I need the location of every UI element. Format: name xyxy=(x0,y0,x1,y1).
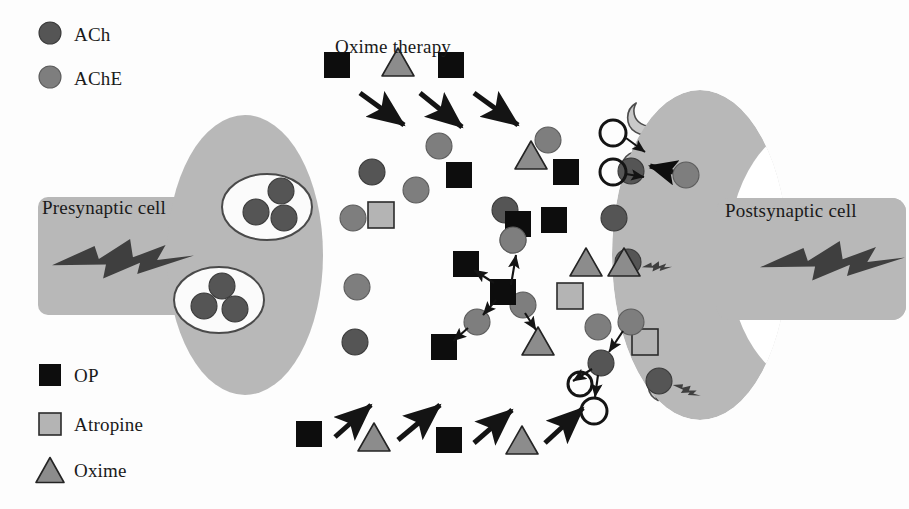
molecule-ache-cluster xyxy=(500,227,526,253)
vesicle-ach xyxy=(209,273,235,299)
legend-label-atropine: Atropine xyxy=(74,414,143,436)
molecule-ach xyxy=(342,329,368,355)
reaction-arrow xyxy=(483,300,496,315)
molecule-op xyxy=(553,159,579,185)
synaptic-vesicle xyxy=(174,267,264,333)
postsynaptic-cell-label: Postsynaptic cell xyxy=(725,200,857,222)
molecule-ache xyxy=(340,205,366,231)
oxime-therapy-label: Oxime therapy xyxy=(335,36,451,58)
molecule-oxime-inflow-bottom xyxy=(506,426,538,454)
molecule-oxime-inflow-bottom xyxy=(358,423,390,451)
molecule-oxime xyxy=(570,248,602,276)
hydrolysis-arrow xyxy=(609,331,623,352)
molecule-atropine xyxy=(368,202,394,228)
vesicle-ach xyxy=(222,296,248,322)
molecule-op-cluster xyxy=(431,334,457,360)
molecule-ache xyxy=(426,133,452,159)
molecule-op-inflow-bottom xyxy=(296,421,322,447)
molecule-op-inflow-bottom xyxy=(436,427,462,453)
vesicle-ach xyxy=(268,178,294,204)
inflow-arrow xyxy=(474,93,518,125)
inflow-arrow xyxy=(545,408,583,443)
legend-swatch-ache xyxy=(39,66,61,88)
molecule-oxime-cluster xyxy=(522,327,554,355)
legend-swatch-ach xyxy=(39,22,61,44)
receptor-bound-ach xyxy=(646,368,672,394)
legend-label-ach: ACh xyxy=(74,24,111,46)
inflow-arrow xyxy=(474,410,512,443)
vesicle-ach xyxy=(271,205,297,231)
molecule-op-cluster xyxy=(453,251,479,277)
molecule-op xyxy=(446,162,472,188)
inflow-arrow xyxy=(420,93,462,127)
inflow-arrow xyxy=(335,405,371,437)
molecule-ache xyxy=(535,127,561,153)
molecule-ach xyxy=(601,205,627,231)
molecule-ach xyxy=(588,350,614,376)
presynaptic-soma xyxy=(167,115,323,395)
legend-swatch-atropine xyxy=(39,413,61,435)
legend-label-ache: AChE xyxy=(74,68,122,90)
synaptic-vesicle xyxy=(222,174,312,240)
vesicle-ach xyxy=(243,199,269,225)
molecule-op xyxy=(541,207,567,233)
legend-swatch-oxime xyxy=(36,458,64,483)
molecule-atropine xyxy=(557,283,583,309)
vesicle-ach xyxy=(191,293,217,319)
molecule-ache xyxy=(585,314,611,340)
molecule-ache-receptor-side xyxy=(673,162,699,188)
hydrolysis-arrow xyxy=(595,375,598,397)
legend-swatch-op xyxy=(39,364,61,386)
molecule-ache xyxy=(403,177,429,203)
legend-label-oxime: Oxime xyxy=(74,460,127,482)
molecule-ach xyxy=(359,159,385,185)
presynaptic-cell xyxy=(38,115,323,395)
hydrolysis-product-ring xyxy=(600,120,626,146)
figure-canvas: Presynaptic cell Postsynaptic cell Oxime… xyxy=(0,0,909,509)
hydrolysis-product-ring xyxy=(581,398,607,424)
inflow-arrow xyxy=(398,405,440,440)
molecule-ache xyxy=(344,274,370,300)
inflow-arrow xyxy=(360,93,404,125)
legend-label-op: OP xyxy=(74,365,99,387)
presynaptic-cell-label: Presynaptic cell xyxy=(42,197,166,219)
